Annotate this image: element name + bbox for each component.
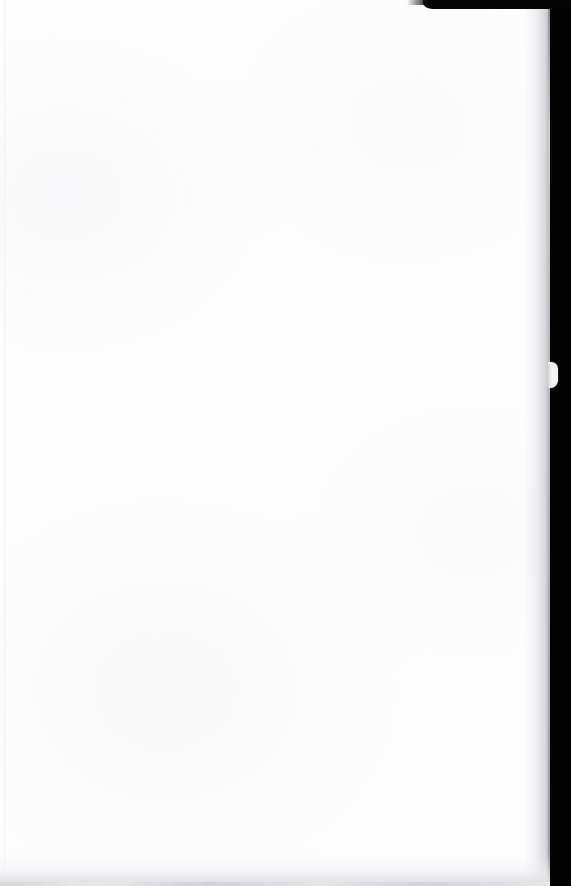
page-edge-notch [548, 362, 558, 388]
scanner-backdrop-top-right [423, 0, 571, 9]
page-bottom-shadow [0, 852, 550, 886]
page-left-crease [4, 0, 7, 886]
page-content-area [46, 58, 498, 822]
page-right-edge-shading [524, 0, 550, 886]
scanned-page-viewport [0, 0, 571, 886]
document-page [0, 0, 550, 886]
page-right-edge [548, 0, 550, 886]
